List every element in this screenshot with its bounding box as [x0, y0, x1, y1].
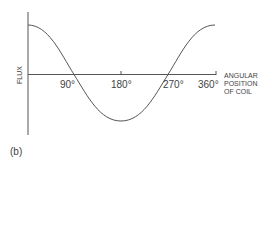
panel-label: (b): [10, 146, 22, 157]
x-axis-label-line-2: POSITION: [224, 80, 258, 88]
x-axis-label-line-3: OF COIL: [224, 88, 258, 96]
tick-label-180: 180°: [111, 79, 132, 90]
tick-label-270: 270°: [163, 79, 184, 90]
tick-label-360: 360°: [198, 79, 219, 90]
x-axis-label: ANGULAR POSITION OF COIL: [224, 72, 258, 96]
tick-label-90: 90°: [60, 79, 75, 90]
x-axis-label-line-1: ANGULAR: [224, 72, 258, 80]
y-axis-label: FLUX: [16, 66, 23, 84]
